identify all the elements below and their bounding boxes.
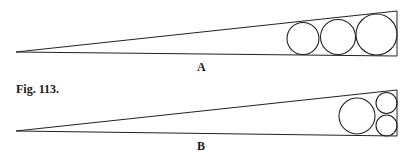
inscribed-circle [376, 93, 397, 114]
wedge-triangle [16, 90, 397, 136]
wedge-panel-b [16, 90, 397, 136]
inscribed-circle [356, 14, 397, 55]
inscribed-circle [376, 115, 397, 136]
wedge-panel-a [16, 11, 397, 56]
figure-canvas [0, 0, 414, 155]
wedge-triangle [16, 11, 397, 56]
figure-caption: Fig. 113. [16, 82, 59, 97]
inscribed-circle [287, 23, 319, 55]
inscribed-circle [321, 20, 356, 55]
panel-label-a: A [197, 60, 206, 75]
inscribed-circle [339, 98, 375, 134]
panel-label-b: B [197, 139, 205, 154]
